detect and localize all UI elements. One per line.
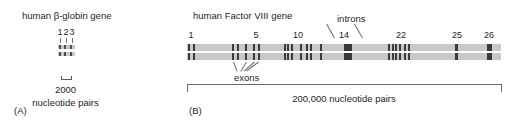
panel-b-exon-number: 5	[253, 30, 258, 40]
panel-b-exon	[388, 44, 390, 51]
panel-b-exon	[487, 44, 492, 51]
panel-b-exon	[300, 44, 302, 51]
panel-b-exon	[392, 53, 394, 60]
panel-b-exon	[284, 53, 286, 60]
panel-b-exon	[237, 44, 239, 51]
panel-b-exon	[408, 53, 410, 60]
gene-structure-figure: human β-globin gene 123 2000 nucleotide …	[0, 0, 523, 126]
panel-b-exon-number: 14	[339, 30, 349, 40]
panel-a-exon-tick	[72, 38, 73, 43]
panel-b-exon	[392, 44, 394, 51]
panel-b-exon	[258, 44, 260, 51]
panel-b-exon	[253, 53, 255, 60]
panel-b-exon	[287, 53, 289, 60]
panel-b-exon-number: 26	[484, 30, 494, 40]
panel-b-exon	[188, 44, 190, 51]
panel-b-exon	[291, 53, 293, 60]
panel-b-exon	[344, 44, 352, 51]
panel-b-exon	[344, 53, 352, 60]
panel-b-exon	[455, 53, 458, 60]
panel-a-exon	[70, 45, 73, 49]
panel-b-exon	[395, 44, 397, 51]
panel-a-exon-tick	[66, 38, 67, 43]
panel-b-scale-bracket	[187, 84, 502, 92]
panel-b-exon	[245, 53, 247, 60]
panel-b-exon	[188, 53, 190, 60]
intron-leader-line	[326, 24, 335, 38]
panel-b-exon	[245, 44, 247, 51]
panel-b-exon	[291, 44, 293, 51]
intron-leader-line	[354, 24, 363, 38]
panel-b-exon	[237, 53, 239, 60]
panel-b-letter: (B)	[189, 105, 202, 116]
panel-b-exon	[253, 44, 255, 51]
panel-b-exon	[258, 53, 260, 60]
panel-b-exon	[320, 44, 322, 51]
panel-b-exon	[300, 53, 302, 60]
panel-b-exon	[388, 53, 390, 60]
panel-b-exon	[310, 53, 312, 60]
panel-b-exon	[306, 53, 308, 60]
panel-a-exon	[64, 45, 66, 49]
panel-b-exon	[404, 44, 406, 51]
panel-b-exon	[232, 53, 234, 60]
panel-b-exon	[487, 53, 492, 60]
panel-b-exon	[232, 44, 234, 51]
panel-b-exon-number: 25	[452, 30, 462, 40]
panel-a-exon-number: 2	[63, 27, 68, 37]
panel-a-exon-tick	[60, 38, 61, 43]
panel-a-scale-value: 2000	[26, 84, 106, 95]
panel-b-exon-number: 22	[396, 30, 406, 40]
panel-a-exon	[59, 52, 61, 56]
panel-b-exon	[404, 53, 406, 60]
panel-b-exon	[193, 53, 195, 60]
panel-b-exon-number: 10	[293, 30, 303, 40]
panel-a-exon-number: 3	[69, 27, 74, 37]
panel-b-title: human Factor VIII gene	[193, 10, 292, 21]
panel-b-exon	[306, 44, 308, 51]
panel-a-exon	[59, 45, 61, 49]
panel-b-exon	[193, 44, 195, 51]
panel-a-scale-bracket	[61, 76, 72, 80]
panel-a-exon	[64, 52, 66, 56]
panel-b-exon-number: 1	[188, 30, 193, 40]
panel-b-exon	[395, 53, 397, 60]
panel-b-exon	[287, 44, 289, 51]
panel-b-exon	[310, 44, 312, 51]
panel-b-scale-value: 200,000 nucleotide pairs	[187, 93, 501, 104]
panel-a-letter: (A)	[14, 105, 27, 116]
panel-b-exon	[399, 53, 401, 60]
panel-a-title: human β-globin gene	[22, 10, 111, 21]
panel-b-exon	[399, 44, 401, 51]
panel-b-exon	[408, 44, 410, 51]
introns-label: introns	[337, 13, 366, 24]
panel-b-exon	[455, 44, 458, 51]
exons-label: exons	[234, 72, 259, 83]
panel-a-exon	[70, 52, 73, 56]
exon-leader-line	[233, 62, 237, 71]
panel-b-exon	[284, 44, 286, 51]
panel-b-exon	[320, 53, 322, 60]
panel-a-exon-number: 1	[57, 27, 62, 37]
